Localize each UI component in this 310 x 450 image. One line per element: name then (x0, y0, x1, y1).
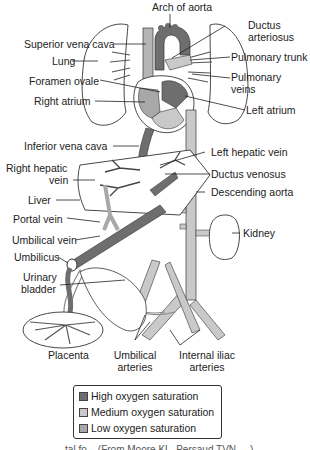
label-portal-vein: Portal vein (13, 213, 63, 225)
label-left-hepatic-vein: Left hepatic vein (211, 146, 287, 158)
legend-label-high: High oxygen saturation (91, 390, 198, 402)
label-lung: Lung (52, 55, 75, 67)
legend-item-medium: Medium oxygen saturation (79, 406, 214, 418)
swatch-low-icon (79, 424, 88, 433)
legend-item-high: High oxygen saturation (79, 390, 198, 402)
legend-label-medium: Medium oxygen saturation (91, 406, 214, 418)
label-right-hepatic-vein-1: Right hepatic (6, 162, 67, 174)
label-urinary-bladder-2: bladder (21, 283, 56, 295)
label-superior-vena-cava: Superior vena cava (24, 38, 114, 50)
label-umbilical-arteries-1: Umbilical (110, 349, 160, 361)
label-umbilicus: Umbilicus (14, 251, 60, 263)
label-foramen-ovale: Foramen ovale (29, 75, 99, 87)
label-internal-iliac-arteries-1: Internal iliac (170, 349, 244, 361)
label-inferior-vena-cava: Inferior vena cava (24, 140, 107, 152)
legend-label-low: Low oxygen saturation (91, 422, 196, 434)
label-internal-iliac-arteries-2: arteries (170, 361, 244, 373)
label-ductus-arteriosus-2: arteriosus (248, 31, 294, 43)
label-urinary-bladder-1: Urinary (23, 271, 57, 283)
swatch-high-icon (79, 392, 88, 401)
label-right-atrium: Right atrium (34, 95, 91, 107)
figure-caption: ...tal fo... (From Moore KL, Persaud TVN… (0, 444, 310, 450)
label-pulmonary-veins-2: veins (231, 83, 256, 95)
pulmonary-trunk (165, 55, 192, 70)
label-pulmonary-veins-1: Pulmonary (231, 71, 281, 83)
label-right-hepatic-vein-2: vein (49, 174, 68, 186)
legend: High oxygen saturation Medium oxygen sat… (73, 385, 222, 439)
label-left-atrium: Left atrium (246, 104, 296, 116)
kidney (209, 215, 239, 259)
swatch-medium-icon (79, 408, 88, 417)
label-arch-of-aorta: Arch of aorta (152, 1, 212, 13)
legend-item-low: Low oxygen saturation (79, 422, 196, 434)
fetal-circulation-diagram (0, 0, 310, 450)
label-liver: Liver (28, 194, 51, 206)
label-ductus-arteriosus-1: Ductus (248, 19, 281, 31)
label-placenta: Placenta (48, 349, 89, 361)
label-pulmonary-trunk: Pulmonary trunk (231, 51, 307, 63)
label-umbilical-vein: Umbilical vein (12, 234, 77, 246)
label-umbilical-arteries-2: arteries (110, 361, 160, 373)
label-descending-aorta: Descending aorta (211, 186, 293, 198)
label-kidney: Kidney (243, 227, 275, 239)
label-ductus-venosus: Ductus venosus (211, 168, 286, 180)
